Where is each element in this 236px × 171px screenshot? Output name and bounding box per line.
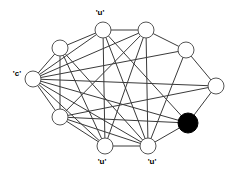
graph-edge xyxy=(67,87,209,115)
graph-figure: 'u''c''u''u' xyxy=(0,0,236,171)
bottom-left-node[interactable] xyxy=(97,138,113,154)
lower-left-node[interactable] xyxy=(52,109,68,125)
node-label: 'u' xyxy=(148,157,157,166)
graph-edge xyxy=(146,37,148,139)
node-label: 'c' xyxy=(13,69,21,78)
top-left-node[interactable] xyxy=(95,22,111,38)
graph-edge xyxy=(103,37,105,139)
graph-edge xyxy=(108,35,182,116)
node-layer xyxy=(25,22,224,154)
top-right-node[interactable] xyxy=(138,22,154,38)
upper-left-node[interactable] xyxy=(52,40,68,56)
node-label: 'u' xyxy=(96,8,105,17)
graph-edge xyxy=(66,33,96,46)
graph-edge xyxy=(107,37,143,140)
selected-node[interactable] xyxy=(178,113,198,133)
node-label: 'u' xyxy=(98,157,107,166)
upper-right-node[interactable] xyxy=(178,42,194,58)
bottom-right-node[interactable] xyxy=(140,138,156,154)
right-node[interactable] xyxy=(208,78,224,94)
graph-edge xyxy=(154,127,180,142)
graph-edge xyxy=(152,33,179,47)
left-node[interactable] xyxy=(25,71,41,87)
graph-edge xyxy=(190,55,211,80)
graph-edge xyxy=(193,92,211,116)
graph-canvas: 'u''c''u''u' xyxy=(0,0,236,171)
